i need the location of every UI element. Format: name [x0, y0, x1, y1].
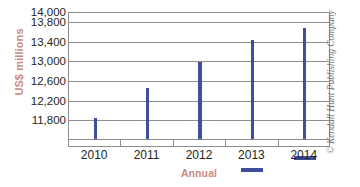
bar-stem [303, 28, 306, 139]
y-axis-tick-label: 13,000 [14, 55, 66, 67]
bar-stem [198, 62, 201, 139]
x-axis-tick-label: 2011 [120, 148, 172, 162]
copyright-credit: © Kendall Hunt Publishing Company [326, 0, 336, 167]
y-axis-tick-label: 13,400 [14, 36, 66, 48]
y-axis-tick-label: 11,800 [14, 114, 66, 126]
x-axis-tick-label: 2010 [68, 148, 120, 162]
bar-stem [94, 118, 97, 139]
y-axis-tick-label: 12,200 [14, 95, 66, 107]
x-axis-tick-labels: 20102011201220132014 [68, 148, 330, 166]
plot-area [68, 12, 330, 140]
bar-stem [146, 88, 149, 139]
y-axis-tick-labels: 14,00013,80013,40013,00012,60012,20011,8… [14, 12, 66, 140]
x-axis-title: Annual [68, 167, 330, 179]
chart-container: US$ millions 14,00013,80013,40013,00012,… [0, 0, 360, 187]
y-axis-tick-label: 12,600 [14, 75, 66, 87]
x-axis-tick-label: 2012 [173, 148, 225, 162]
bars-layer [69, 13, 329, 139]
x-axis-line [68, 146, 330, 147]
x-axis-tick-label: 2014 [278, 148, 330, 162]
x-axis-tick-label: 2013 [225, 148, 277, 162]
y-axis-tick-label: 13,800 [14, 16, 66, 28]
bar-stem [251, 40, 254, 139]
